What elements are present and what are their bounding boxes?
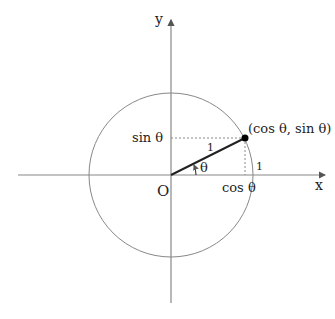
unit-circle-diagram: y x O (cos θ, sin θ) sin θ cos θ 1 1 θ <box>0 0 335 319</box>
angle-arc <box>194 165 196 175</box>
point-label: (cos θ, sin θ) <box>248 121 331 136</box>
origin-label: O <box>157 182 169 200</box>
x-axis-label: x <box>315 177 323 193</box>
radius-label: 1 <box>207 141 214 154</box>
angle-label: θ <box>200 160 208 175</box>
cos-label: cos θ <box>222 180 256 195</box>
x-intercept-label: 1 <box>256 160 263 173</box>
sin-label: sin θ <box>132 130 163 145</box>
y-axis-label: y <box>154 11 163 27</box>
